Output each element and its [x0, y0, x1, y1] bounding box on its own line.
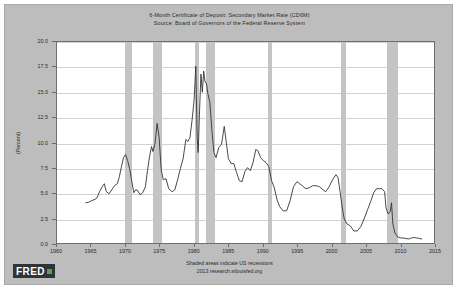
- y-tick-label: 15.0: [38, 89, 49, 95]
- chart-title: 6-Month Certificate of Deposit: Secondar…: [5, 11, 454, 19]
- x-tick-label: 1980: [188, 248, 200, 254]
- y-tick-label: 2.5: [41, 216, 49, 222]
- source-note: 2013 research.stlouisfed.org: [5, 268, 454, 276]
- y-tick-label: 7.5: [41, 165, 49, 171]
- x-axis: 1960196519701975198019851990199520002005…: [56, 244, 435, 260]
- x-tick-label: 1975: [153, 248, 165, 254]
- y-tick-label: 12.5: [38, 114, 49, 120]
- x-tick-mark: [263, 244, 264, 247]
- x-tick-mark: [90, 244, 91, 247]
- x-tick-mark: [435, 244, 436, 247]
- x-tick-mark: [56, 244, 57, 247]
- x-tick-label: 1990: [257, 248, 269, 254]
- chart-title-block: 6-Month Certificate of Deposit: Secondar…: [5, 11, 454, 27]
- chart-subtitle: Source: Board of Governors of the Federa…: [5, 19, 454, 27]
- x-tick-mark: [194, 244, 195, 247]
- x-tick-mark: [297, 244, 298, 247]
- data-series-line: [57, 42, 434, 243]
- y-tick-label: 20.0: [38, 38, 49, 44]
- x-tick-mark: [366, 244, 367, 247]
- x-tick-label: 2000: [326, 248, 338, 254]
- recession-note: Shaded areas indicate US recessions: [5, 260, 454, 268]
- fred-graph-panel: 6-Month Certificate of Deposit: Secondar…: [4, 4, 453, 285]
- fred-chart-screenshot: 6-Month Certificate of Deposit: Secondar…: [0, 0, 457, 289]
- x-tick-label: 2005: [360, 248, 372, 254]
- y-tick-label: 5.0: [41, 190, 49, 196]
- x-tick-label: 1960: [50, 248, 62, 254]
- y-tick-label: 0.0: [41, 241, 49, 247]
- x-tick-mark: [401, 244, 402, 247]
- footer-notes: Shaded areas indicate US recessions 2013…: [5, 260, 454, 275]
- x-tick-label: 1970: [119, 248, 131, 254]
- x-tick-mark: [125, 244, 126, 247]
- fred-logo[interactable]: FRED: [13, 264, 55, 278]
- y-tick-label: 17.5: [38, 63, 49, 69]
- x-tick-label: 2015: [429, 248, 441, 254]
- x-tick-mark: [332, 244, 333, 247]
- x-tick-label: 1985: [222, 248, 234, 254]
- y-axis: 0.02.55.07.510.012.515.017.520.0: [5, 41, 56, 244]
- fred-logo-text: FRED: [16, 266, 45, 277]
- y-tick-label: 10.0: [38, 140, 49, 146]
- x-tick-mark: [228, 244, 229, 247]
- x-tick-mark: [159, 244, 160, 247]
- plot-area: [56, 41, 435, 244]
- fred-logo-mark-icon: [47, 269, 52, 274]
- x-tick-label: 2010: [395, 248, 407, 254]
- x-tick-label: 1995: [291, 248, 303, 254]
- x-tick-label: 1965: [84, 248, 96, 254]
